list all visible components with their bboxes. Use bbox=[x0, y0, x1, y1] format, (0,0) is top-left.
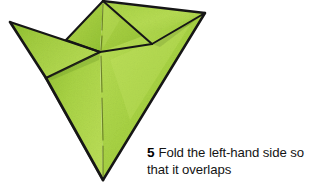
step-number: 5 bbox=[147, 145, 154, 160]
illustration-page: 5Fold the left-hand side so that it over… bbox=[0, 0, 309, 183]
step-caption: 5Fold the left-hand side so that it over… bbox=[147, 145, 309, 178]
step-instruction-text: Fold the left-hand side so that it overl… bbox=[147, 145, 304, 177]
